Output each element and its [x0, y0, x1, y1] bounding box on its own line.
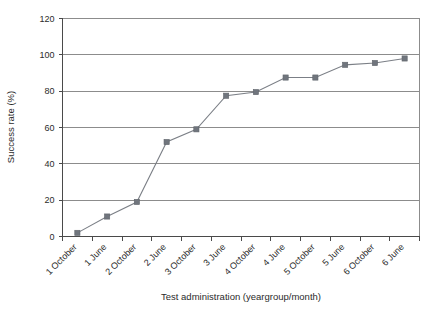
data-point-marker	[313, 75, 318, 80]
x-axis-title: Test administration (yeargroup/month)	[161, 291, 321, 302]
data-point-marker	[164, 139, 169, 144]
chart-figure: 020406080100120 1 October1 June2 October…	[0, 0, 438, 312]
chart-background	[0, 0, 438, 312]
data-point-marker	[402, 56, 407, 61]
data-point-marker	[343, 62, 348, 67]
y-axis-title: Success rate (%)	[5, 91, 16, 163]
data-point-marker	[194, 127, 199, 132]
y-tick-label: 120	[39, 14, 54, 24]
data-point-marker	[75, 230, 80, 235]
y-tick-label: 60	[44, 123, 54, 133]
y-tick-label: 100	[39, 50, 54, 60]
data-point-marker	[224, 93, 229, 98]
data-point-marker	[253, 89, 258, 94]
data-point-marker	[134, 199, 139, 204]
data-point-marker	[105, 214, 110, 219]
y-tick-label: 40	[44, 159, 54, 169]
success-rate-line-chart: 020406080100120 1 October1 June2 October…	[0, 0, 438, 312]
y-tick-label: 80	[44, 86, 54, 96]
data-point-marker	[283, 75, 288, 80]
data-point-marker	[372, 60, 377, 65]
y-tick-label: 20	[44, 195, 54, 205]
y-tick-label: 0	[49, 232, 54, 242]
